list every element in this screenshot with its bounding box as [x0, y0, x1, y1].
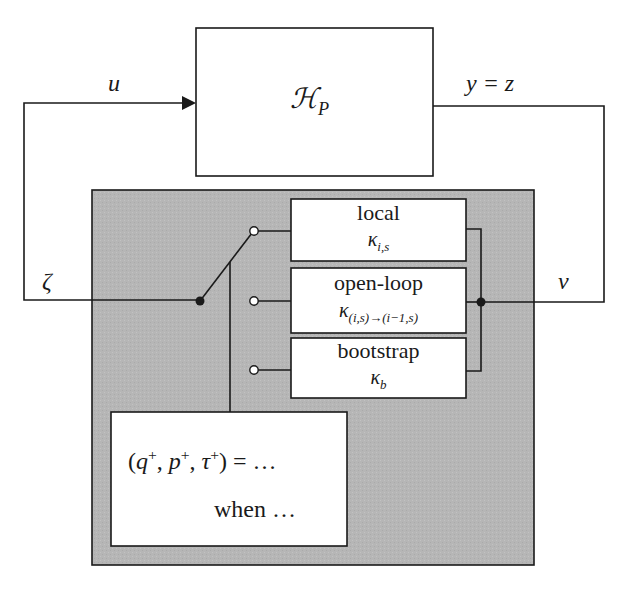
signal-y-z-label: y = z	[466, 70, 514, 97]
mode-local-name: local	[291, 200, 466, 226]
signal-zeta-label: ζ	[42, 268, 52, 295]
signal-v-label: v	[558, 268, 569, 295]
mode-open-loop-name: open-loop	[291, 270, 466, 296]
mode-local: local κi,s	[291, 200, 466, 260]
mode-local-gain: κi,s	[291, 226, 466, 260]
switch-pivot-dot	[196, 297, 205, 306]
jump-rule-equation: (q+, p+, τ+) = …	[128, 446, 277, 475]
mode-bootstrap: bootstrap κb	[291, 338, 466, 398]
terminal-open-loop-icon	[250, 297, 258, 305]
mode-bootstrap-name: bootstrap	[291, 338, 466, 364]
jump-rule-box	[111, 412, 347, 546]
terminal-local-icon	[250, 227, 258, 235]
output-junction-dot	[477, 298, 486, 307]
mode-open-loop-gain: κ(i,s)→(i−1,s)	[291, 296, 466, 332]
jump-rule-condition: when …	[214, 496, 296, 523]
mode-open-loop: open-loop κ(i,s)→(i−1,s)	[291, 270, 466, 332]
input-arrow-icon	[182, 96, 196, 110]
terminal-bootstrap-icon	[250, 366, 258, 374]
plant-label: ℋP	[290, 82, 329, 120]
signal-u-label: u	[108, 70, 120, 97]
mode-bootstrap-gain: κb	[291, 364, 466, 398]
